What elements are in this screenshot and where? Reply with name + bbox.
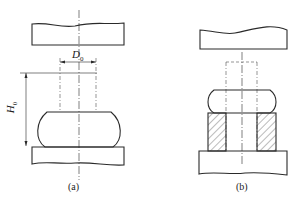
forging-diagram <box>0 0 307 203</box>
d-subscript: 0 <box>80 55 84 63</box>
upper-die-a <box>32 23 124 45</box>
panel-b <box>199 27 287 175</box>
lower-die-b <box>199 151 287 175</box>
caption-b: (b) <box>236 181 248 192</box>
panel-a <box>20 10 124 180</box>
h-symbol: H <box>4 105 16 113</box>
upper-die-b <box>200 27 287 49</box>
ring-right <box>257 113 276 151</box>
d0-label: D0 <box>72 48 83 63</box>
d-symbol: D <box>72 48 80 60</box>
h-subscript: 0 <box>11 102 19 106</box>
ring-left <box>208 113 226 151</box>
h0-label: H0 <box>4 102 19 113</box>
lower-die-a <box>32 147 124 165</box>
caption-a: (a) <box>68 181 79 192</box>
